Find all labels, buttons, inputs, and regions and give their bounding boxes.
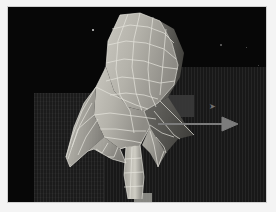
vertex-dot-lower-left [70, 164, 71, 165]
vertex-dot-upper-right [220, 44, 222, 46]
vertex-dot-top-left [92, 29, 94, 31]
vertex-dot-right-mid [258, 65, 259, 66]
mouse-cursor: ➤ [209, 103, 216, 111]
viewport-3d[interactable]: ➤ [8, 7, 266, 202]
screenshot-root: ➤ [0, 0, 276, 212]
vertex-dot-right [246, 47, 247, 48]
translate-gizmo-x[interactable] [8, 7, 266, 202]
image-frame: ➤ [8, 7, 266, 202]
